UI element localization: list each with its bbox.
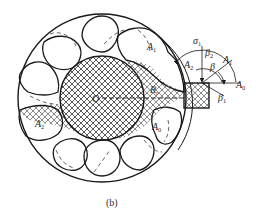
rotor-lobe-diagram: O Rr σ1 β2 A1 β A2 A0 β1 A1 A2 A0 (b) [0,0,256,215]
center-label: O [92,93,99,104]
a0-lower-label: A0 [151,121,161,133]
a2-right-label: A2 [183,59,193,71]
a1-inner-label: A1 [146,41,156,53]
a0-right-label: A0 [235,79,245,91]
beta1-label: β1 [217,92,226,104]
beta-label: β [209,61,215,72]
beta2-label: β2 [204,47,213,59]
a1-right-label: A1 [222,54,232,66]
hatched-loading-block [184,83,209,108]
figure-caption: (b) [106,197,118,209]
sigma1-label: σ1 [193,35,201,47]
